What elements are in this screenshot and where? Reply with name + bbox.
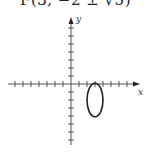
ellipse-curve bbox=[87, 83, 103, 117]
ellipse-graph: x y bbox=[0, 0, 151, 153]
y-axis-arrow-icon bbox=[69, 17, 74, 24]
x-axis-arrow-icon bbox=[133, 82, 140, 87]
y-axis-label: y bbox=[75, 14, 82, 24]
x-axis-label: x bbox=[138, 87, 143, 97]
